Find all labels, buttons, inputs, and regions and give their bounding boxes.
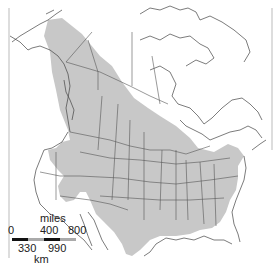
scale-bar: miles 0 400 800 330 990 km <box>8 212 108 262</box>
scale-tick-400: 400 <box>40 224 58 236</box>
scale-tick-0: 0 <box>8 224 14 236</box>
scale-segment <box>28 238 44 241</box>
scale-unit-miles: miles <box>40 212 66 224</box>
scale-segment <box>12 238 28 241</box>
scale-tick-800: 800 <box>68 224 86 236</box>
scale-bar-graphic <box>12 238 76 241</box>
scale-segment <box>60 238 76 241</box>
scale-segment <box>44 238 60 241</box>
scale-tick-990: 990 <box>48 242 66 254</box>
scale-unit-km: km <box>34 253 49 263</box>
